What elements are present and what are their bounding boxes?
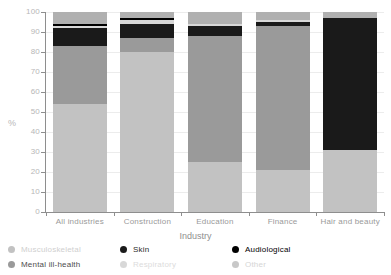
- legend-swatch-icon: [120, 261, 127, 268]
- legend-swatch-icon: [232, 261, 239, 268]
- bar-segment-other: [120, 12, 174, 18]
- y-tick-label: 80: [6, 47, 40, 56]
- plot-area: [46, 12, 384, 212]
- x-tick-mark: [114, 212, 115, 216]
- legend-item-audiological[interactable]: Audiological: [232, 242, 352, 257]
- legend-label: Musculoskeletal: [21, 245, 81, 254]
- legend-item-mental-ill-health[interactable]: Mental ill-health: [8, 257, 120, 272]
- bar-hair-and-beauty: [323, 12, 377, 212]
- chart-legend: MusculoskeletalSkinAudiologicalMental il…: [8, 242, 383, 272]
- x-axis-title: Industry: [0, 231, 391, 241]
- x-tick-mark: [249, 212, 250, 216]
- x-axis-line: [45, 212, 384, 213]
- bar-segment-skin: [120, 24, 174, 38]
- legend-label: Other: [245, 260, 266, 269]
- bar-segment-mental-ill-health: [256, 26, 310, 170]
- y-tick-label: 30: [6, 147, 40, 156]
- legend-swatch-icon: [232, 246, 239, 253]
- legend-label: Respiratory: [133, 260, 176, 269]
- legend-label: Skin: [133, 245, 149, 254]
- y-tick-label: 100: [6, 7, 40, 16]
- y-tick-label: 20: [6, 167, 40, 176]
- bar-segment-mental-ill-health: [120, 38, 174, 52]
- bar-segment-audiological: [120, 18, 174, 20]
- legend-swatch-icon: [8, 261, 15, 268]
- legend-label: Audiological: [245, 245, 291, 254]
- legend-label: Mental ill-health: [21, 260, 80, 269]
- bar-segment-skin: [188, 26, 242, 36]
- x-tick-label: All industries: [46, 217, 114, 227]
- x-tick-label: Hair and beauty: [316, 217, 384, 227]
- bar-education: [188, 12, 242, 212]
- y-axis-title: %: [8, 118, 16, 128]
- x-tick-mark: [384, 212, 385, 216]
- legend-item-musculoskeletal[interactable]: Musculoskeletal: [8, 242, 120, 257]
- bar-segment-respiratory: [256, 20, 310, 22]
- bar-segment-respiratory: [120, 20, 174, 24]
- bar-all-industries: [53, 12, 107, 212]
- bar-segment-mental-ill-health: [53, 46, 107, 104]
- y-tick-label: 90: [6, 27, 40, 36]
- legend-item-skin[interactable]: Skin: [120, 242, 232, 257]
- bar-segment-other: [53, 12, 107, 24]
- bar-segment-skin: [256, 22, 310, 26]
- bar-finance: [256, 12, 310, 212]
- bar-segment-respiratory: [53, 26, 107, 28]
- x-tick-mark: [46, 212, 47, 216]
- legend-swatch-icon: [8, 246, 15, 253]
- bar-segment-other: [256, 12, 310, 20]
- y-tick-label: 60: [6, 87, 40, 96]
- legend-swatch-icon: [120, 246, 127, 253]
- bar-segment-skin: [323, 18, 377, 150]
- x-tick-label: Construction: [114, 217, 182, 227]
- x-tick-label: Finance: [249, 217, 317, 227]
- x-tick-mark: [181, 212, 182, 216]
- bar-segment-musculoskeletal: [120, 52, 174, 212]
- y-tick-label: 0: [6, 207, 40, 216]
- legend-item-respiratory[interactable]: Respiratory: [120, 257, 232, 272]
- stacked-bar-chart: 1009080706050403020100 All industriesCon…: [0, 0, 391, 275]
- legend-item-other[interactable]: Other: [232, 257, 352, 272]
- y-tick-label: 40: [6, 127, 40, 136]
- bar-segment-mental-ill-health: [188, 36, 242, 162]
- bar-segment-skin: [53, 28, 107, 46]
- y-tick-label: 50: [6, 107, 40, 116]
- bar-construction: [120, 12, 174, 212]
- bar-segment-musculoskeletal: [53, 104, 107, 212]
- x-tick-label: Education: [181, 217, 249, 227]
- bar-segment-other: [188, 12, 242, 24]
- bar-segment-audiological: [53, 24, 107, 26]
- y-tick-label: 70: [6, 67, 40, 76]
- bar-segment-musculoskeletal: [188, 162, 242, 212]
- y-tick-label: 10: [6, 187, 40, 196]
- x-tick-mark: [316, 212, 317, 216]
- bar-segment-musculoskeletal: [256, 170, 310, 212]
- bar-segment-respiratory: [188, 24, 242, 26]
- bar-segment-other: [323, 12, 377, 18]
- bar-segment-musculoskeletal: [323, 150, 377, 212]
